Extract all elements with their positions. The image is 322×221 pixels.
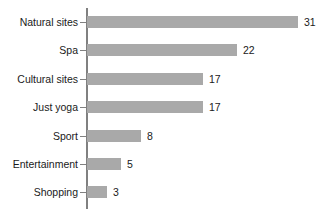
axis-tick	[80, 79, 86, 81]
category-label: Shopping	[0, 184, 78, 200]
bar-chart: Natural sites 31 Spa 22 Cultural sites 1…	[0, 0, 322, 221]
bar-sport	[87, 130, 141, 142]
bar-value-label: 3	[113, 184, 119, 200]
bar-natural-sites	[87, 16, 298, 28]
category-label: Sport	[0, 128, 78, 144]
axis-tick	[80, 192, 86, 194]
bar-row: Cultural sites 17	[0, 71, 322, 87]
bar-just-yoga	[87, 101, 203, 113]
bar-row: Sport 8	[0, 128, 322, 144]
axis-tick	[80, 164, 86, 166]
bar-value-label: 8	[147, 128, 153, 144]
category-label: Entertainment	[0, 156, 78, 172]
bar-row: Spa 22	[0, 42, 322, 58]
bar-shopping	[87, 186, 107, 198]
bar-value-label: 5	[127, 156, 133, 172]
bar-row: Just yoga 17	[0, 99, 322, 115]
bar-cultural-sites	[87, 73, 203, 85]
bar-value-label: 22	[243, 42, 255, 58]
bar-row: Shopping 3	[0, 184, 322, 200]
bar-row: Entertainment 5	[0, 156, 322, 172]
axis-tick	[80, 50, 86, 52]
category-label: Natural sites	[0, 14, 78, 30]
bar-value-label: 17	[209, 71, 221, 87]
bar-spa	[87, 44, 237, 56]
bar-value-label: 31	[304, 14, 316, 30]
category-label: Cultural sites	[0, 71, 78, 87]
category-label: Just yoga	[0, 99, 78, 115]
axis-tick	[80, 107, 86, 109]
bar-entertainment	[87, 158, 121, 170]
bar-row: Natural sites 31	[0, 14, 322, 30]
bar-value-label: 17	[209, 99, 221, 115]
category-label: Spa	[0, 42, 78, 58]
axis-tick	[80, 22, 86, 24]
axis-tick	[80, 136, 86, 138]
